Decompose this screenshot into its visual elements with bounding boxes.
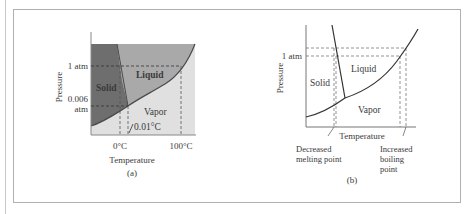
region-label-liquid-a: Liquid bbox=[136, 70, 164, 80]
pointer-boil-b bbox=[403, 127, 406, 136]
x-axis-label-b: Temperature bbox=[339, 131, 384, 141]
y-tick-1atm-a: 1 atm bbox=[68, 61, 88, 71]
panel-a: 1 atm 0.006 atm Pressure Solid Liquid Va… bbox=[54, 32, 196, 178]
y-tick-1atm-b: 1 atm bbox=[282, 51, 302, 61]
caption-b: (b) bbox=[347, 175, 358, 185]
caption-a: (a) bbox=[127, 168, 137, 178]
region-label-vapor-a: Vapor bbox=[144, 107, 168, 117]
x-axis-label-a: Temperature bbox=[109, 155, 154, 165]
region-label-solid-a: Solid bbox=[96, 83, 117, 93]
region-label-liquid-b: Liquid bbox=[351, 64, 377, 74]
region-label-solid-b: Solid bbox=[310, 78, 330, 88]
region-label-vapor-b: Vapor bbox=[358, 105, 382, 115]
melting-line-b bbox=[332, 25, 345, 98]
y-tick-0006-a: 0.006 bbox=[68, 94, 89, 104]
y-axis-label-b: Pressure bbox=[275, 63, 285, 94]
annotation-point-b: point bbox=[380, 164, 398, 174]
y-axis-label-a: Pressure bbox=[54, 72, 64, 103]
annotation-decreased-b: Decreased bbox=[296, 144, 332, 154]
annotation-boiling-b: boiling bbox=[380, 154, 405, 164]
x-tick-100c-a: 100°C bbox=[169, 141, 192, 151]
pointer-melt-b bbox=[328, 127, 334, 136]
panel-b: 1 atm Pressure Solid Liquid Vapor Temper… bbox=[275, 25, 418, 185]
annotation-melting-point-b: melting point bbox=[296, 154, 342, 164]
triple-point-annotation-a: 0.01°C bbox=[134, 122, 161, 132]
y-tick-atm-a: atm bbox=[75, 104, 89, 114]
sublimation-curve-b bbox=[306, 98, 345, 117]
phase-diagrams: 1 atm 0.006 atm Pressure Solid Liquid Va… bbox=[0, 0, 475, 214]
x-tick-0c-a: 0°C bbox=[113, 141, 127, 151]
annotation-increased-b: Increased bbox=[380, 144, 413, 154]
